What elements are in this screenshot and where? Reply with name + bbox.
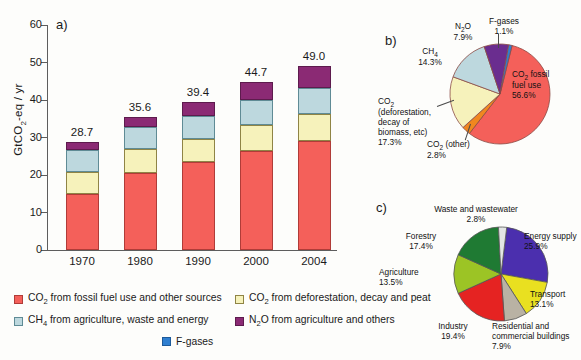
legend-item-deforestation[interactable]: CO2 from deforestation, decay and peat	[235, 292, 431, 306]
legend-item-fgases[interactable]: F-gases	[162, 336, 213, 347]
bar-segment-ch4	[124, 127, 157, 149]
bar-segment-ch4	[240, 100, 273, 125]
pie-b-label-deforestation: CO2 (deforestation, decay of biomass, et…	[378, 97, 436, 147]
legend-swatch-fossil-icon	[14, 295, 23, 304]
pie-b-label-n2o: N2O 7.9%	[446, 22, 480, 43]
pie-c-label-transport: Transport 13.1%	[530, 290, 580, 310]
bar-segment-fossil	[66, 194, 99, 250]
bar-total-label: 49.0	[284, 50, 344, 62]
y-axis-title-sub: 2	[19, 121, 28, 126]
x-tick-label-1990: 1990	[168, 255, 228, 267]
bar-segment-ch4	[66, 150, 99, 172]
figure-root: a) GtCO2-eq / yr 0102030405060 28.735.63…	[0, 0, 581, 360]
bar-1990	[182, 25, 215, 250]
panel-a-bar-chart: a) GtCO2-eq / yr 0102030405060 28.735.63…	[0, 0, 360, 280]
bar-1980	[124, 25, 157, 250]
pie-c-label-residential: Residential and commercial buildings 7.9…	[492, 322, 580, 351]
pie-c-label-industry: Industry 19.4%	[425, 322, 481, 342]
panel-c-label: c)	[376, 200, 387, 215]
bar-segment-n2o	[182, 102, 215, 116]
bar-segment-fossil	[182, 162, 215, 250]
x-tick-label-2004: 2004	[284, 255, 344, 267]
pie-c-label-forestry: Forestry 17.4%	[395, 232, 447, 252]
legend-label-fossil: CO2 from fossil fuel use and other sourc…	[28, 292, 222, 306]
legend-item-n2o[interactable]: N2O from agriculture and others	[235, 314, 395, 328]
y-tick-label: 20	[20, 169, 42, 180]
y-tick-label: 40	[20, 94, 42, 105]
y-tick-label: 0	[20, 244, 42, 255]
legend-item-ch4[interactable]: CH4 from agriculture, waste and energy	[14, 314, 209, 328]
legend-swatch-deforestation-icon	[235, 295, 244, 304]
bar-segment-defor	[240, 125, 273, 152]
bar-segment-defor	[66, 172, 99, 194]
y-tick-label: 10	[20, 207, 42, 218]
pie-b-leader-fgases	[498, 34, 499, 48]
bar-segment-n2o	[124, 117, 157, 128]
bar-total-label: 28.7	[52, 126, 112, 138]
y-tick-label: 50	[20, 57, 42, 68]
legend-swatch-ch4-icon	[14, 317, 23, 326]
bar-segment-fossil	[298, 141, 331, 250]
pie-c-label-energy: Energy supply 25.9%	[524, 232, 580, 252]
y-tick-label: 60	[20, 19, 42, 30]
bar-2000	[240, 25, 273, 250]
legend-item-fossil[interactable]: CO2 from fossil fuel use and other sourc…	[14, 292, 222, 306]
bar-segment-ch4	[298, 88, 331, 114]
legend-label-fgases: F-gases	[176, 336, 213, 347]
y-tick-label: 30	[20, 132, 42, 143]
x-tick-label-1970: 1970	[52, 255, 112, 267]
bar-total-label: 44.7	[226, 66, 286, 78]
x-tick-label-2000: 2000	[226, 255, 286, 267]
bar-segment-ch4	[182, 116, 215, 139]
legend-label-n2o: N2O from agriculture and others	[249, 314, 395, 328]
bar-total-label: 39.4	[168, 86, 228, 98]
legend-swatch-fgases-icon	[162, 337, 171, 346]
bar-segment-n2o	[66, 142, 99, 150]
bar-chart-legend: CO2 from fossil fuel use and other sourc…	[14, 288, 454, 358]
legend-label-ch4: CH4 from agriculture, waste and energy	[28, 314, 209, 328]
bar-segment-defor	[182, 139, 215, 162]
y-axis-title: GtCO2-eq / yr	[12, 60, 27, 180]
y-axis-line	[47, 25, 48, 251]
pie-c-label-waste: Waste and wastewater 2.8%	[420, 205, 532, 225]
pie-b-label-ch4: CH4 14.3%	[410, 47, 450, 68]
x-axis-line	[47, 250, 337, 251]
bar-segment-fossil	[124, 173, 157, 250]
bar-segment-defor	[124, 149, 157, 173]
pie-b-label-co2-other: CO2 (other) 2.8%	[427, 140, 497, 161]
pie-b-label-fgases: F-gases 1.1%	[481, 17, 527, 37]
bar-segment-n2o	[240, 82, 273, 100]
bar-segment-fossil	[240, 151, 273, 250]
pie-c-label-agriculture: Agriculture 13.5%	[379, 268, 433, 288]
legend-swatch-n2o-icon	[235, 317, 244, 326]
x-tick-label-1980: 1980	[110, 255, 170, 267]
bar-segment-defor	[298, 114, 331, 141]
bar-segment-n2o	[298, 66, 331, 87]
panel-b-label: b)	[385, 33, 397, 48]
bar-total-label: 35.6	[110, 101, 170, 113]
legend-label-deforestation: CO2 from deforestation, decay and peat	[249, 292, 431, 306]
pie-b-label-fossil: CO2 fossil fuel use 56.6%	[512, 70, 578, 101]
